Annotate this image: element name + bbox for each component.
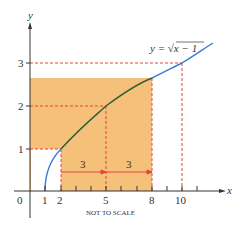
- interval-label-2: 3: [126, 158, 132, 170]
- x-tick-label-2: 2: [57, 194, 63, 206]
- x-axis-arrow-icon: [219, 189, 226, 193]
- function-label-lhs: y =: [149, 42, 168, 54]
- y-tick-label-2: 2: [18, 100, 24, 112]
- y-axis-label: y: [27, 9, 33, 21]
- y-tick-label-3: 3: [18, 57, 24, 69]
- function-label: y = √x − 1: [149, 42, 204, 54]
- x-tick-label-10: 10: [175, 194, 187, 206]
- x-tick-label-8: 8: [149, 194, 155, 206]
- y-axis-arrow-icon: [28, 22, 32, 29]
- svg-text:y = √x − 1: y = √x − 1: [149, 42, 197, 54]
- graph-canvas: 3 3 y x 0 1 2 5 8 10 1 2 3: [0, 0, 233, 232]
- x-tick-label-0: 0: [17, 194, 23, 206]
- interval-label-1: 3: [80, 158, 86, 170]
- function-label-radicand: x − 1: [173, 42, 197, 54]
- x-axis-label: x: [226, 184, 232, 196]
- y-tick-marks: [26, 63, 30, 149]
- x-tick-label-5: 5: [103, 194, 109, 206]
- scale-note: NOT TO SCALE: [86, 209, 135, 217]
- x-tick-label-1: 1: [42, 194, 48, 206]
- y-tick-label-1: 1: [18, 143, 24, 155]
- unshaded-corner: [31, 149, 61, 191]
